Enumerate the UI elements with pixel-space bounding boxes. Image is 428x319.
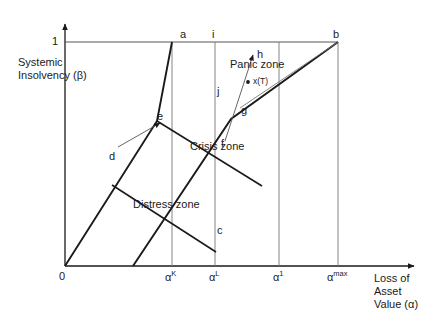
x-tick-alpha-1: α1 xyxy=(273,270,284,284)
point-label-b: b xyxy=(333,28,339,41)
crisis-panic-separator xyxy=(157,121,262,186)
point-label-f: f xyxy=(221,137,224,150)
x-tick-alpha-max: αmax xyxy=(327,270,348,284)
zone-label-distress: Distress zone xyxy=(133,198,200,211)
point-label-e: e xyxy=(157,110,163,123)
x-axis-title-line2: Asset xyxy=(374,285,418,298)
point-label-g: g xyxy=(241,104,247,117)
zone-label-crisis: Crisis zone xyxy=(190,140,244,153)
y-tick-one: 1 xyxy=(52,35,58,48)
point-label-c: c xyxy=(217,224,223,237)
x-tick-alpha-1-sup: 1 xyxy=(279,269,283,278)
region-boundaries xyxy=(65,42,338,266)
state-point-xt xyxy=(246,80,250,84)
x-tick-alpha-k: αK xyxy=(165,270,176,284)
y-axis-title-line1: Systemic xyxy=(18,56,87,69)
figure-container: Systemic Insolvency (β) 1 0 Loss of Asse… xyxy=(0,0,428,319)
origin-label: 0 xyxy=(59,270,65,283)
point-label-h: h xyxy=(257,48,263,61)
point-label-a: a xyxy=(180,28,186,41)
point-label-d: d xyxy=(109,150,115,163)
distress-crisis-separator xyxy=(112,185,216,252)
x-axis-title: Loss of Asset Value (α) xyxy=(374,272,418,311)
y-axis-title: Systemic Insolvency (β) xyxy=(18,56,87,82)
point-label-j: j xyxy=(217,85,219,98)
x-tick-alpha-max-sup: max xyxy=(333,269,347,278)
g-to-b-ray xyxy=(240,42,338,108)
arrow-d-to-e xyxy=(118,123,160,147)
x-tick-alpha-k-sup: K xyxy=(171,269,176,278)
x-axis-title-line1: Loss of xyxy=(374,272,418,285)
point-label-i: i xyxy=(212,28,214,41)
x-tick-alpha-l-sup: L xyxy=(215,269,219,278)
x-tick-alpha-l: αL xyxy=(209,270,220,284)
y-axis-title-line2: Insolvency (β) xyxy=(18,69,87,82)
right-boundary xyxy=(133,42,338,266)
annotation-xt: x(T) xyxy=(253,76,268,86)
x-axis-title-line3: Value (α) xyxy=(374,298,418,311)
